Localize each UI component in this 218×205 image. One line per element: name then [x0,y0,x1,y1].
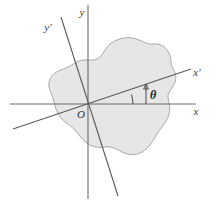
x-axis-label: x [193,105,199,117]
rotated-axes-figure: x y x′ y′ O θ [0,0,218,205]
shaded-region [49,38,176,155]
origin-label: O [77,108,85,120]
x-prime-axis-label: x′ [192,66,201,78]
y-axis-label: y [79,6,85,18]
angle-label: θ [150,88,157,102]
y-prime-axis-label: y′ [43,21,52,33]
figure-canvas: x y x′ y′ O θ [0,0,218,205]
